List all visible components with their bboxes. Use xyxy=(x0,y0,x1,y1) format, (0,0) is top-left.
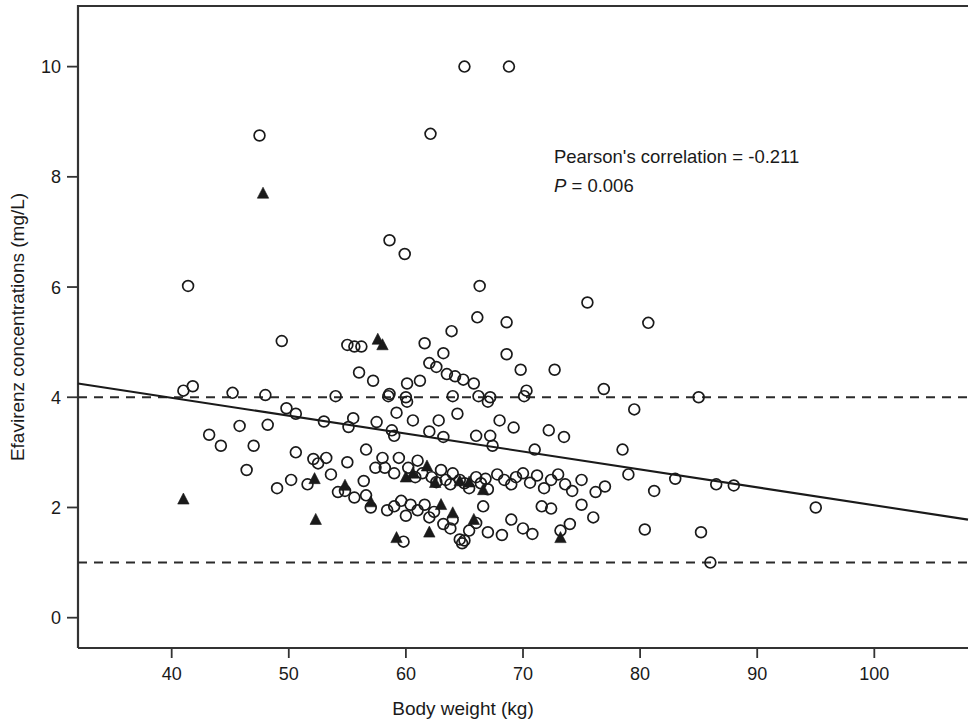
regression-line xyxy=(78,383,968,519)
data-point-circle xyxy=(377,452,388,463)
data-point-circle xyxy=(553,469,564,480)
data-point-circle xyxy=(391,407,402,418)
data-point-circle xyxy=(286,475,297,486)
x-tick-label-60: 60 xyxy=(396,664,416,684)
y-axis-ticks: 0246810 xyxy=(41,57,78,628)
data-points xyxy=(178,61,821,568)
data-point-circle xyxy=(260,390,271,401)
regression-trend-line xyxy=(78,383,968,519)
data-point-circle xyxy=(471,430,482,441)
data-point-circle xyxy=(412,455,423,466)
data-point-circle xyxy=(399,249,410,260)
data-point-circle xyxy=(321,452,332,463)
data-point-circle xyxy=(412,505,423,516)
data-point-circle xyxy=(354,367,365,378)
data-point-circle xyxy=(588,512,599,523)
data-point-circle xyxy=(241,465,252,476)
data-point-triangle xyxy=(257,187,268,198)
data-point-circle xyxy=(447,391,458,402)
data-point-triangle xyxy=(178,493,189,504)
data-point-circle xyxy=(457,538,468,549)
data-point-circle xyxy=(643,317,654,328)
data-point-circle xyxy=(433,415,444,426)
x-axis-ticks: 405060708090100 xyxy=(162,648,890,684)
data-point-circle xyxy=(187,381,198,392)
data-point-circle xyxy=(559,432,570,443)
data-point-circle xyxy=(290,447,301,458)
data-point-circle xyxy=(408,415,419,426)
data-point-circle xyxy=(506,514,517,525)
data-point-circle xyxy=(474,281,485,292)
data-point-circle xyxy=(438,348,449,359)
data-point-circle xyxy=(649,486,660,497)
data-point-circle xyxy=(501,317,512,328)
data-point-circle xyxy=(424,426,435,437)
data-point-circle xyxy=(400,510,411,521)
plot-canvas: 405060708090100 0246810 Body weight (kg)… xyxy=(0,0,970,727)
x-tick-label-100: 100 xyxy=(859,664,889,684)
data-point-circle xyxy=(629,404,640,415)
plot-border-top-left xyxy=(78,6,968,648)
data-point-circle xyxy=(393,452,404,463)
data-point-circle xyxy=(532,470,543,481)
y-tick-label-6: 6 xyxy=(51,278,61,298)
y-tick-label-4: 4 xyxy=(51,388,61,408)
data-point-circle xyxy=(617,444,628,455)
data-point-circle xyxy=(515,364,526,375)
data-point-circle xyxy=(384,235,395,246)
data-point-circle xyxy=(468,378,479,389)
axis-titles: Body weight (kg)Efavirenz concentrations… xyxy=(7,193,534,719)
data-point-circle xyxy=(215,440,226,451)
data-point-circle xyxy=(543,425,554,436)
data-point-circle xyxy=(478,501,489,512)
data-point-circle xyxy=(546,475,557,486)
data-point-circle xyxy=(227,387,238,398)
data-point-circle xyxy=(598,384,609,395)
data-point-circle xyxy=(342,457,353,468)
y-tick-label-8: 8 xyxy=(51,167,61,187)
y-tick-label-2: 2 xyxy=(51,498,61,518)
data-point-triangle xyxy=(468,513,479,524)
data-point-circle xyxy=(459,61,470,72)
x-tick-label-40: 40 xyxy=(162,664,182,684)
data-point-circle xyxy=(485,430,496,441)
data-point-circle xyxy=(419,338,430,349)
data-point-circle xyxy=(549,364,560,375)
y-tick-label-10: 10 xyxy=(41,57,61,77)
x-tick-label-90: 90 xyxy=(747,664,767,684)
data-point-circle xyxy=(564,519,575,530)
data-point-circle xyxy=(446,326,457,337)
data-point-circle xyxy=(576,499,587,510)
data-point-circle xyxy=(452,408,463,419)
data-point-circle xyxy=(361,444,372,455)
data-point-circle xyxy=(472,312,483,323)
data-point-circle xyxy=(482,527,493,538)
data-point-circle xyxy=(415,375,426,386)
data-point-circle xyxy=(639,524,650,535)
data-point-triangle xyxy=(310,513,321,524)
scatter-plot-figure: 405060708090100 0246810 Body weight (kg)… xyxy=(0,0,970,727)
data-point-circle xyxy=(183,281,194,292)
reference-lines xyxy=(78,397,968,562)
data-point-circle xyxy=(248,440,259,451)
annotation-italic-symbol: P xyxy=(554,175,567,196)
data-point-circle xyxy=(342,340,353,351)
data-point-circle xyxy=(447,468,458,479)
data-point-circle xyxy=(696,527,707,538)
data-point-circle xyxy=(438,432,449,443)
x-axis-title: Body weight (kg) xyxy=(392,698,534,719)
data-point-circle xyxy=(349,492,360,503)
annotation-value: = 0.006 xyxy=(566,175,633,196)
data-point-circle xyxy=(371,417,382,428)
data-point-circle xyxy=(204,429,215,440)
data-point-circle xyxy=(405,499,416,510)
y-tick-label-0: 0 xyxy=(51,608,61,628)
x-tick-label-50: 50 xyxy=(279,664,299,684)
data-point-circle xyxy=(497,530,508,541)
data-point-circle xyxy=(358,476,369,487)
annotation-line-1: P = 0.006 xyxy=(554,175,634,196)
annotation-line-0: Pearson's correlation = -0.211 xyxy=(554,146,799,167)
data-point-circle xyxy=(326,469,337,480)
data-point-circle xyxy=(402,378,413,389)
data-point-circle xyxy=(276,336,287,347)
